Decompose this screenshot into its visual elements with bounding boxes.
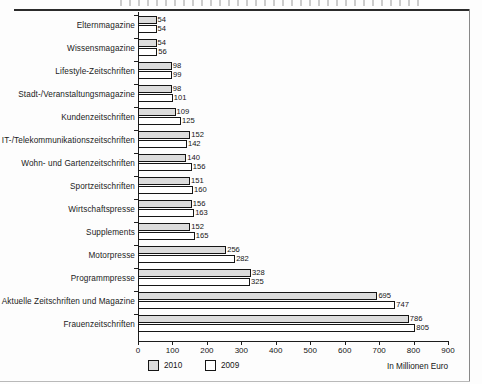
bar-2010: 152 xyxy=(138,131,190,139)
x-tick xyxy=(448,341,449,345)
bar-2010: 98 xyxy=(138,62,172,70)
x-axis: 0100200300400500600700800900 xyxy=(0,341,470,357)
category-label: IT-/Telekommunikationszeitschriften xyxy=(2,130,135,151)
bar-2010: 54 xyxy=(138,39,157,47)
legend-label-2009: 2009 xyxy=(221,361,239,370)
legend-label-2010: 2010 xyxy=(164,361,182,370)
chart-page: Elternmagazine5454Wissensmagazine5456Lif… xyxy=(0,0,482,384)
bar-2010: 152 xyxy=(138,223,190,231)
bar-value-label: 156 xyxy=(193,163,206,171)
x-tick xyxy=(345,341,346,345)
bar-2010: 140 xyxy=(138,154,186,162)
bar-2009: 142 xyxy=(138,140,187,148)
bar-value-label: 156 xyxy=(193,200,206,208)
x-tick-label: 100 xyxy=(166,346,179,355)
legend-item-2010: 2010 xyxy=(148,360,182,371)
category-label: Stadt-/Veranstaltungsmagazine xyxy=(18,84,135,105)
category-label: Lifestyle-Zeitschriften xyxy=(55,61,135,82)
bar-value-label: 109 xyxy=(177,108,190,116)
x-tick xyxy=(172,341,173,345)
bar-2010: 109 xyxy=(138,108,176,116)
category-label: Kundenzeitschriften xyxy=(61,107,135,128)
bar-2010: 695 xyxy=(138,292,377,300)
x-tick xyxy=(138,341,139,345)
bar-value-label: 786 xyxy=(410,315,423,323)
plot-area: Elternmagazine5454Wissensmagazine5456Lif… xyxy=(0,12,470,342)
bar-row: IT-/Telekommunikationszeitschriften15214… xyxy=(0,130,470,151)
bar-2009: 160 xyxy=(138,186,193,194)
x-tick xyxy=(310,341,311,345)
bar-2009: 165 xyxy=(138,232,195,240)
category-label: Sportzeitschriften xyxy=(70,176,135,197)
bar-value-label: 125 xyxy=(182,117,195,125)
category-label: Motorpresse xyxy=(88,245,135,266)
category-label: Wohn- und Gartenzeitschriften xyxy=(21,153,135,174)
bar-row: Sportzeitschriften151160 xyxy=(0,176,470,197)
bar-value-label: 99 xyxy=(173,71,181,79)
legend-swatch-2010 xyxy=(148,360,159,371)
bar-value-label: 140 xyxy=(187,154,200,162)
category-label: Aktuelle Zeitschriften und Magazine xyxy=(2,291,135,312)
legend-swatch-2009 xyxy=(205,360,216,371)
bar-value-label: 142 xyxy=(188,140,201,148)
bar-2009: 99 xyxy=(138,71,172,79)
bar-2009: 54 xyxy=(138,25,157,33)
x-tick-label: 600 xyxy=(338,346,351,355)
bar-value-label: 160 xyxy=(194,186,207,194)
bar-2009: 163 xyxy=(138,209,194,217)
category-label: Programmpresse xyxy=(71,268,135,289)
x-tick-label: 800 xyxy=(407,346,420,355)
bar-value-label: 152 xyxy=(191,223,204,231)
bar-2009: 125 xyxy=(138,117,181,125)
bar-value-label: 56 xyxy=(158,48,166,56)
category-label: Wirtschaftspresse xyxy=(68,199,135,220)
bar-2010: 256 xyxy=(138,246,226,254)
axis-unit-note: In Millionen Euro xyxy=(387,362,448,371)
bar-row: Programmpresse328325 xyxy=(0,268,470,289)
bar-2009: 101 xyxy=(138,94,173,102)
page-frame-bottom xyxy=(0,381,470,382)
category-label: Supplements xyxy=(86,222,135,243)
bar-value-label: 163 xyxy=(195,209,208,217)
x-tick xyxy=(414,341,415,345)
x-tick-label: 400 xyxy=(269,346,282,355)
bar-value-label: 151 xyxy=(191,177,204,185)
bar-value-label: 282 xyxy=(236,255,249,263)
x-tick-label: 500 xyxy=(304,346,317,355)
x-tick xyxy=(379,341,380,345)
bar-row: Motorpresse256282 xyxy=(0,245,470,266)
bar-2010: 98 xyxy=(138,85,172,93)
bar-value-label: 805 xyxy=(416,324,429,332)
bar-row: Wohn- und Gartenzeitschriften140156 xyxy=(0,153,470,174)
x-tick-label: 700 xyxy=(372,346,385,355)
bar-row: Frauenzeitschriften786805 xyxy=(0,314,470,335)
scan-artifact-top xyxy=(120,0,420,6)
category-label: Elternmagazine xyxy=(77,15,135,36)
category-label: Frauenzeitschriften xyxy=(63,314,135,335)
bar-value-label: 98 xyxy=(173,62,181,70)
bar-value-label: 98 xyxy=(173,85,181,93)
bar-row: Kundenzeitschriften109125 xyxy=(0,107,470,128)
bar-row: Wirtschaftspresse156163 xyxy=(0,199,470,220)
bar-2009: 156 xyxy=(138,163,192,171)
bar-value-label: 54 xyxy=(158,39,166,47)
bar-value-label: 325 xyxy=(251,278,264,286)
bar-2009: 282 xyxy=(138,255,235,263)
x-tick-label: 0 xyxy=(136,346,140,355)
chart-legend: 2010 2009 In Millionen Euro xyxy=(0,360,470,380)
bar-2010: 156 xyxy=(138,200,192,208)
x-tick-label: 300 xyxy=(235,346,248,355)
bar-value-label: 101 xyxy=(174,94,187,102)
x-tick-label: 900 xyxy=(441,346,454,355)
bar-row: Elternmagazine5454 xyxy=(0,15,470,36)
bar-value-label: 747 xyxy=(396,301,409,309)
category-label: Wissensmagazine xyxy=(67,38,135,59)
x-tick xyxy=(241,341,242,345)
bar-value-label: 165 xyxy=(196,232,209,240)
bar-row: Lifestyle-Zeitschriften9899 xyxy=(0,61,470,82)
bar-row: Stadt-/Veranstaltungsmagazine98101 xyxy=(0,84,470,105)
bar-2010: 151 xyxy=(138,177,190,185)
bar-value-label: 152 xyxy=(191,131,204,139)
x-tick xyxy=(276,341,277,345)
bar-2010: 54 xyxy=(138,16,157,24)
